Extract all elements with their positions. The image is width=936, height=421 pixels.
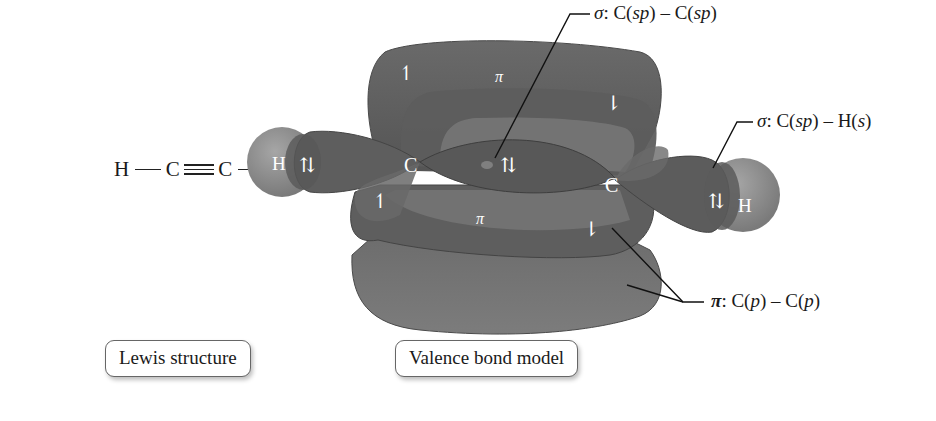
- pi-label-bottom: π: [476, 210, 485, 227]
- atom-label-h-left: H: [272, 153, 286, 174]
- caption-valence-bond-model: Valence bond model: [395, 340, 578, 377]
- atom-label-c-right: C: [605, 174, 618, 196]
- callout-sigma-ch: σ: C(sp) – H(s): [757, 110, 871, 132]
- electron-down-pi-top: ⇂: [605, 92, 622, 114]
- electron-pair-cc-sigma: ⇅: [500, 154, 517, 176]
- electron-up-pi-top: ↿: [398, 62, 415, 84]
- electron-down-pi-bottom: ⇂: [583, 218, 600, 240]
- atom-label-c-left: C: [404, 154, 417, 176]
- atom-label-h-right: H: [738, 195, 752, 216]
- electron-up-pi-bottom: ↿: [372, 190, 389, 212]
- electron-pair-right-ch: ⇅: [708, 190, 725, 212]
- callout-pi-cc: π: C(p) – C(p): [711, 290, 820, 312]
- electron-pair-left-ch: ⇅: [299, 154, 316, 176]
- caption-lewis-structure: Lewis structure: [105, 340, 251, 377]
- callout-sigma-cc: σ: C(sp) – C(sp): [594, 2, 717, 24]
- pi-label-top: π: [495, 68, 504, 85]
